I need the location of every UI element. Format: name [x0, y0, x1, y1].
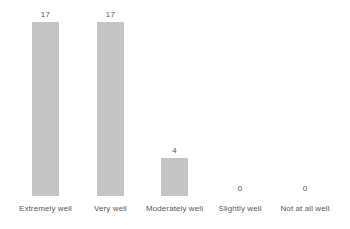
bar-value-label: 0: [303, 184, 308, 194]
bar-group-extremely-well[interactable]: 17: [14, 10, 78, 196]
plot-area: 17 17 4 0 0: [0, 0, 350, 229]
bar-value-label: 4: [172, 146, 177, 156]
bar-rect-moderately-well[interactable]: [161, 158, 188, 196]
bar-group-not-at-all-well[interactable]: 0: [273, 184, 337, 196]
bar-column: 0: [208, 184, 272, 196]
bar-value-label: 0: [238, 184, 243, 194]
bar-chart: 17 17 4 0 0: [0, 0, 350, 229]
bar-group-slightly-well[interactable]: 0: [208, 184, 272, 196]
bar-column: 17: [14, 10, 78, 196]
bar-column: 4: [143, 146, 207, 196]
bar-group-moderately-well[interactable]: 4: [143, 146, 207, 196]
bar-rect-very-well[interactable]: [97, 22, 124, 196]
bar-value-label: 17: [106, 10, 115, 20]
category-label-not-at-all-well: Not at all well: [262, 203, 348, 214]
bar-column: 0: [273, 184, 337, 196]
bar-rect-extremely-well[interactable]: [32, 22, 59, 196]
bar-group-very-well[interactable]: 17: [79, 10, 143, 196]
bar-column: 17: [79, 10, 143, 196]
bar-value-label: 17: [41, 10, 50, 20]
